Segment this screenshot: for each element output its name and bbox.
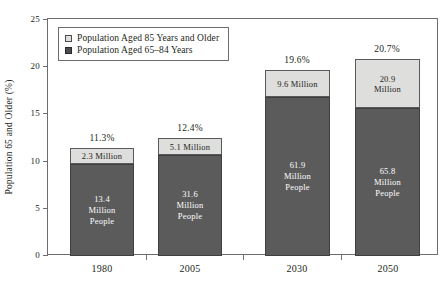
bar-segment-65-84-2005: 31.6 Million People <box>158 155 222 256</box>
y-tick-label-25: 25 <box>0 14 47 25</box>
chart-legend: Population Aged 85 Years and Older Popul… <box>58 27 229 61</box>
x-tick-mark-3 <box>341 255 342 260</box>
bar-segment-85plus-2030: 9.6 Million <box>265 70 330 97</box>
x-tick-label-2030: 2030 <box>257 263 337 274</box>
bar-segment-label: 20.9 Million <box>374 74 401 94</box>
y-tick-label-10: 10 <box>0 156 47 167</box>
x-tick-label-2005: 2005 <box>150 263 230 274</box>
y-tick-label-20: 20 <box>0 61 47 72</box>
y-tick-mark-0 <box>43 255 48 256</box>
y-tick-label-0: 0 <box>0 250 47 261</box>
bar-segment-label: 31.6 Million People <box>177 189 204 222</box>
legend-item-65-84: Population Aged 65–84 Years <box>65 44 219 56</box>
x-tick-label-1980: 1980 <box>62 263 142 274</box>
x-tick-mark-2 <box>243 255 244 260</box>
stacked-bar-chart: Population 65 and Older (%) 25 20 15 10 … <box>0 0 448 287</box>
bar-segment-65-84-1980: 13.4 Million People <box>70 164 134 256</box>
bar-total-label-2005: 12.4% <box>127 123 253 133</box>
x-tick-mark-1 <box>146 255 147 260</box>
bar-segment-label: 5.1 Million <box>170 142 210 152</box>
y-tick-label-15: 15 <box>0 108 47 119</box>
bar-segment-85plus-2050: 20.9 Million <box>355 59 420 108</box>
bar-segment-label: 65.8 Million People <box>374 166 401 199</box>
bar-total-label-2030: 19.6% <box>234 55 360 65</box>
y-tick-label-5: 5 <box>0 203 47 214</box>
x-tick-label-2050: 2050 <box>348 263 428 274</box>
legend-swatch-light-icon <box>65 35 72 42</box>
bar-segment-85plus-2005: 5.1 Million <box>158 138 222 155</box>
bar-segment-label: 13.4 Million People <box>89 194 116 227</box>
bar-segment-65-84-2030: 61.9 Million People <box>265 97 330 256</box>
legend-label: Population Aged 85 Years and Older <box>77 33 219 43</box>
bar-segment-label: 61.9 Million People <box>284 160 311 193</box>
bar-segment-65-84-2050: 65.8 Million People <box>355 108 420 256</box>
y-axis-title: Population 65 and Older (%) <box>2 18 16 255</box>
bar-total-label-1980: 11.3% <box>39 133 165 143</box>
legend-label: Population Aged 65–84 Years <box>77 45 193 55</box>
bar-segment-85plus-1980: 2.3 Million <box>70 148 134 164</box>
bar-segment-label: 2.3 Million <box>82 151 122 161</box>
legend-swatch-dark-icon <box>65 47 72 54</box>
legend-item-85plus: Population Aged 85 Years and Older <box>65 32 219 44</box>
bar-total-label-2050: 20.7% <box>324 44 448 54</box>
bar-segment-label: 9.6 Million <box>277 79 317 89</box>
y-axis-title-text: Population 65 and Older (%) <box>4 79 14 194</box>
